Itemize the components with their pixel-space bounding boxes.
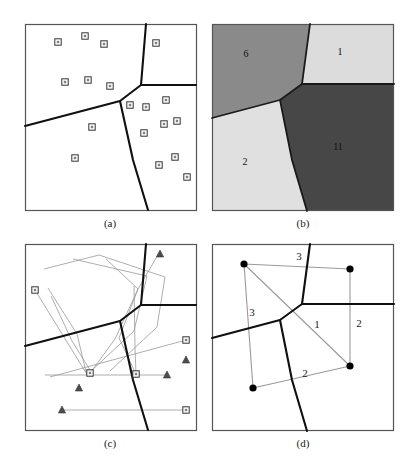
edge-count-label: 2	[302, 367, 308, 379]
panel-b-caption: (b)	[297, 217, 310, 230]
point-marker-core	[84, 35, 86, 37]
panel-c-caption: (c)	[104, 437, 117, 450]
region-count-label: 1	[338, 46, 343, 57]
graph-node	[346, 362, 353, 369]
point-marker-core	[74, 157, 76, 159]
point-marker-core	[163, 123, 165, 125]
edge-count-label: 3	[296, 250, 302, 262]
path-start-marker-core	[135, 373, 137, 375]
point-marker-core	[109, 85, 111, 87]
panel-d-frame	[213, 245, 394, 431]
point-marker-core	[87, 79, 89, 81]
point-marker-core	[129, 104, 131, 106]
panel-d-caption: (d)	[297, 437, 310, 450]
point-marker-core	[176, 120, 178, 122]
region-1	[302, 24, 394, 84]
point-marker-core	[143, 132, 145, 134]
point-marker-core	[165, 99, 167, 101]
path-start-marker-core	[185, 339, 187, 341]
graph-node	[240, 260, 247, 267]
point-marker-core	[174, 156, 176, 158]
panel-a-caption: (a)	[104, 217, 117, 230]
panel-a: (a)	[25, 24, 197, 230]
panel-a-frame	[26, 25, 197, 211]
graph-node	[249, 384, 256, 391]
edge-count-label: 3	[249, 306, 255, 318]
point-marker-core	[186, 176, 188, 178]
panel-c: (c)	[25, 244, 197, 450]
point-marker-core	[64, 81, 66, 83]
point-marker-core	[158, 164, 160, 166]
point-marker-core	[103, 43, 105, 45]
panel-b-regions	[212, 24, 394, 211]
graph-node	[346, 265, 353, 272]
path-start-marker-core	[34, 289, 36, 291]
point-marker-core	[91, 126, 93, 128]
path-start-marker-core	[185, 409, 187, 411]
region-count-label: 11	[333, 141, 343, 152]
region-count-label: 2	[243, 156, 248, 167]
edge-count-label: 1	[314, 318, 320, 330]
panel-c-frame	[26, 245, 197, 431]
panel-d: 33122 (d)	[212, 244, 394, 450]
edge-count-label: 2	[356, 317, 362, 329]
point-marker-core	[57, 41, 59, 43]
point-marker-core	[145, 106, 147, 108]
figure-canvas: (a) 61211 (b) (c)	[0, 0, 416, 464]
region-count-label: 6	[244, 48, 249, 59]
point-marker-core	[155, 42, 157, 44]
path-start-marker-core	[89, 372, 91, 374]
panel-b: 61211 (b)	[212, 24, 394, 230]
